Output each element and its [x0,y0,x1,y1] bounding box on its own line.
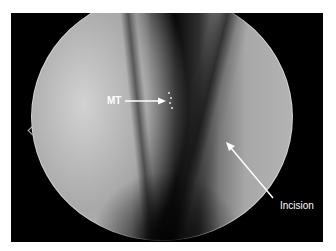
image-frame [11,13,323,242]
incision-label: Incision [280,201,314,211]
marker-dot [168,92,170,94]
endoscope-view [31,13,293,241]
marker-dot [170,97,172,99]
marker-dot [171,107,173,109]
marker-dot [169,102,171,104]
tissue-shadow-bottom [91,171,241,241]
mt-label: MT [107,96,121,106]
